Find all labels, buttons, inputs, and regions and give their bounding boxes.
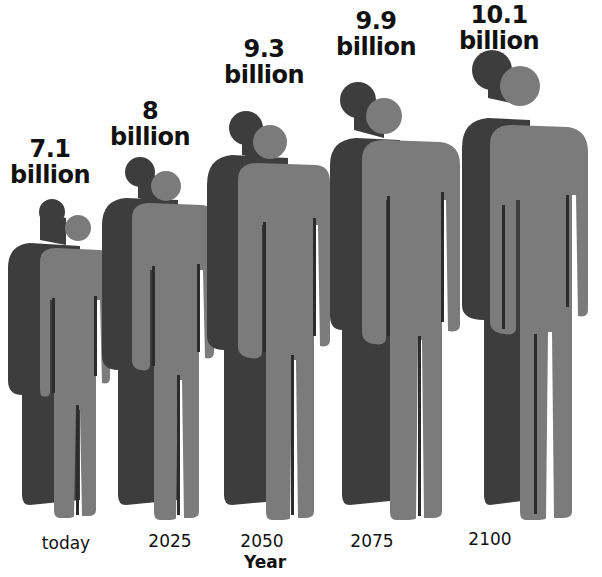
value-label-today: 7.1 billion [10,136,90,188]
value-unit: billion [336,34,416,60]
value-label-2025: 8 billion [110,98,190,150]
value-number: 7.1 [10,136,90,162]
value-label-2075: 9.9 billion [336,8,416,60]
value-label-2100: 10.1 billion [454,2,544,54]
x-tick-2025: 2025 [140,531,200,551]
value-unit: billion [224,62,304,88]
value-unit: billion [10,162,90,188]
value-number: 9.3 [224,36,304,62]
value-number: 8 [110,98,190,124]
x-tick-today: today [36,533,96,553]
x-tick-2100: 2100 [460,529,520,549]
value-label-2050: 9.3 billion [224,36,304,88]
x-tick-2050: 2050 [232,531,292,551]
person-figure-today [8,199,110,518]
x-axis-label: Year [244,552,286,572]
value-number: 10.1 [454,2,544,28]
value-unit: billion [454,28,544,54]
x-tick-2075: 2075 [342,531,402,551]
person-figure-2050 [207,111,330,520]
value-unit: billion [110,124,190,150]
value-number: 9.9 [336,8,416,34]
person-figure-2100 [462,50,588,520]
person-figure-2075 [330,82,460,520]
person-figure-2025 [102,157,214,520]
